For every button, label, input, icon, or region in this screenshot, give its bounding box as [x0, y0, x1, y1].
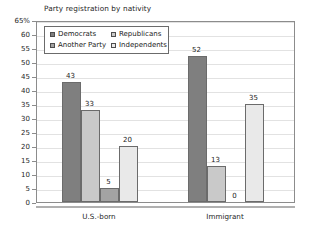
- y-tick-label: 5: [26, 185, 30, 193]
- bar-value-label: 52: [184, 46, 209, 54]
- bar: [188, 56, 207, 202]
- y-tick-label: 50: [21, 59, 30, 67]
- legend-swatch-icon: [50, 43, 55, 48]
- bar-value-label: 35: [241, 94, 266, 102]
- y-tick-label: 20: [21, 143, 30, 151]
- x-axis-line: [36, 206, 295, 208]
- y-tick-mark: [32, 203, 36, 204]
- x-axis-label: Immigrant: [185, 212, 265, 221]
- y-tick-label: 45: [21, 73, 30, 81]
- bar-value-label: 20: [115, 136, 140, 144]
- bar-chart: Party registration by nativity 65%605550…: [0, 0, 310, 237]
- y-tick-label: 10: [21, 171, 30, 179]
- gridline: [37, 64, 294, 65]
- x-axis-label: U.S.-born: [59, 212, 139, 221]
- bar: [245, 104, 264, 202]
- legend-item: Republicans: [111, 30, 161, 38]
- bar-value-label: 0: [222, 192, 247, 200]
- y-tick-label: 15: [21, 157, 30, 165]
- bar-value-label: 43: [58, 72, 83, 80]
- y-tick-label: 65%: [14, 17, 30, 25]
- y-tick-label: 55: [21, 45, 30, 53]
- gridline: [37, 22, 294, 23]
- y-axis: 65%605550454035302520151050: [0, 21, 33, 203]
- legend-swatch-icon: [50, 32, 55, 37]
- legend-item: Independents: [111, 41, 167, 49]
- legend-item: Democrats: [50, 30, 96, 38]
- y-tick-label: 25: [21, 129, 30, 137]
- legend-label: Republicans: [119, 30, 161, 38]
- y-tick-label: 30: [21, 115, 30, 123]
- chart-title: Party registration by nativity: [44, 4, 151, 13]
- bar: [100, 188, 119, 202]
- bar-value-label: 5: [96, 178, 121, 186]
- bar-value-label: 33: [77, 100, 102, 108]
- chart-legend: DemocratsRepublicansAnother PartyIndepen…: [44, 26, 169, 54]
- bar-value-label: 13: [203, 156, 228, 164]
- bar: [81, 110, 100, 202]
- y-tick-label: 40: [21, 87, 30, 95]
- legend-swatch-icon: [111, 32, 116, 37]
- legend-label: Another Party: [58, 41, 106, 49]
- legend-label: Democrats: [58, 30, 96, 38]
- y-tick-label: 0: [26, 199, 30, 207]
- y-tick-label: 35: [21, 101, 30, 109]
- legend-item: Another Party: [50, 41, 106, 49]
- legend-label: Independents: [119, 41, 167, 49]
- y-tick-label: 60: [21, 31, 30, 39]
- legend-swatch-icon: [111, 43, 116, 48]
- bar: [119, 146, 138, 202]
